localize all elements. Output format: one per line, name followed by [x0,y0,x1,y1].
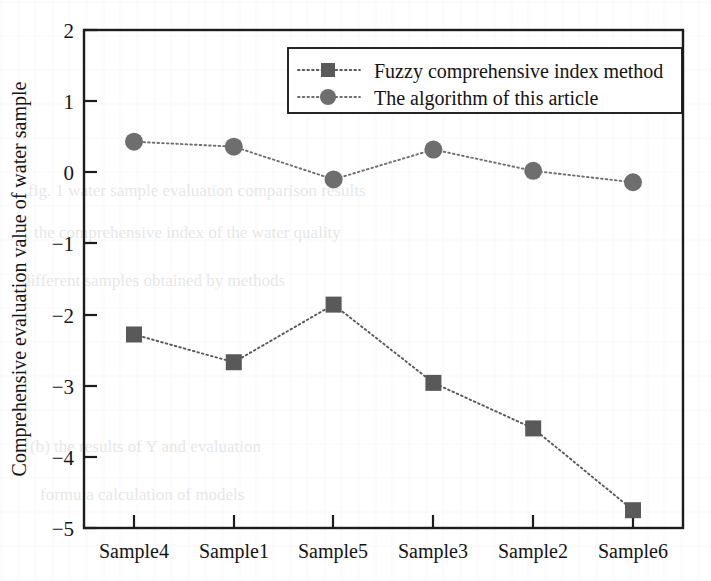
x-axis-tick-labels: Sample4 Sample1 Sample5 Sample3 Sample2 … [99,540,668,563]
square-marker-icon[interactable] [226,354,242,370]
circle-marker-icon[interactable] [524,162,542,180]
y-tick-label: −3 [52,375,74,399]
y-tick-label: −1 [52,232,74,256]
y-tick-label: 0 [64,161,75,185]
y-tick-label: −2 [52,304,74,328]
chart-canvas: fig. 1 water sample evaluation compariso… [0,0,711,581]
x-tick-label: Sample3 [398,540,468,563]
x-tick-label: Sample1 [199,540,269,563]
y-tick-label: 2 [64,19,75,43]
square-marker-icon[interactable] [525,420,541,436]
y-tick-label: −5 [52,517,74,541]
square-marker-icon[interactable] [625,502,641,518]
ghost-line-1: fig. 1 water sample evaluation compariso… [28,181,366,200]
chart-figure: fig. 1 water sample evaluation compariso… [0,0,711,581]
x-tick-label: Sample6 [598,540,668,563]
square-marker-icon[interactable] [126,326,142,342]
legend-label-algorithm: The algorithm of this article [374,87,598,110]
y-tick-label: 1 [64,90,75,114]
ghost-line-2: the comprehensive index of the water qua… [34,223,341,242]
legend-label-fuzzy: Fuzzy comprehensive index method [374,60,663,83]
x-tick-label: Sample5 [298,540,368,563]
square-marker-icon[interactable] [425,375,441,391]
y-axis-title: Comprehensive evaluation value of water … [8,81,31,476]
square-marker-icon[interactable] [326,297,342,313]
circle-marker-icon[interactable] [325,170,343,188]
circle-marker-icon[interactable] [125,133,143,151]
ghost-line-5: formula calculation of models [40,485,244,504]
series-line [134,142,633,183]
ghost-line-3: different samples obtained by methods [22,271,285,290]
chart-legend: Fuzzy comprehensive index method The alg… [288,48,682,113]
circle-marker-icon[interactable] [624,173,642,191]
x-tick-label: Sample4 [99,540,169,563]
y-tick-label: −4 [52,446,75,470]
circle-marker-icon [320,89,336,105]
circle-marker-icon[interactable] [424,141,442,159]
x-tick-label: Sample2 [498,540,568,563]
series-line [134,305,633,511]
x-axis-ticks [134,515,633,528]
square-marker-icon [321,63,335,77]
circle-marker-icon[interactable] [225,138,243,156]
